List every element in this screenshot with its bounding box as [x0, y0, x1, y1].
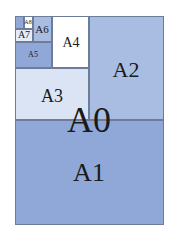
label-a0: A0: [67, 102, 111, 138]
label-a1: A1: [73, 160, 105, 186]
label-a8: A8: [24, 19, 31, 25]
label-a7: A7: [18, 30, 30, 40]
label-a3: A3: [41, 87, 63, 105]
label-a6: A6: [35, 24, 48, 35]
label-a5: A5: [28, 51, 38, 59]
label-a2: A2: [113, 59, 140, 81]
label-a4: A4: [62, 36, 79, 50]
